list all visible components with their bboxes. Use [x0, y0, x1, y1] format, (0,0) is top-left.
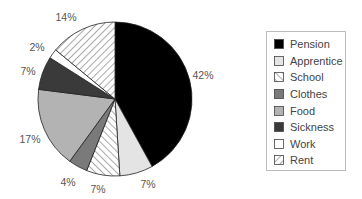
- legend-label: Pension: [290, 38, 330, 50]
- legend-item-food: Food: [274, 102, 345, 119]
- legend-item-work: Work: [274, 136, 345, 153]
- slice-label-clothes: 4%: [60, 176, 75, 188]
- legend-swatch-icon: [274, 89, 284, 99]
- slice-label-school: 7%: [90, 183, 105, 195]
- legend-label: School: [290, 71, 324, 83]
- legend-swatch-icon: [274, 139, 284, 149]
- legend: PensionApprenticeSchoolClothesFoodSickne…: [266, 31, 346, 171]
- slice-label-pension: 42%: [192, 69, 213, 81]
- legend-item-rent: Rent: [274, 152, 345, 169]
- legend-label: Clothes: [290, 88, 327, 100]
- legend-item-apprentice: Apprentice: [274, 53, 345, 70]
- legend-item-clothes: Clothes: [274, 86, 345, 103]
- legend-swatch-icon: [274, 72, 284, 82]
- legend-label: Sickness: [290, 121, 334, 133]
- slice-label-sickness: 7%: [20, 65, 35, 77]
- legend-item-school: School: [274, 69, 345, 86]
- legend-label: Rent: [290, 154, 313, 166]
- slice-label-rent: 14%: [55, 11, 76, 23]
- legend-swatch-icon: [274, 122, 284, 132]
- legend-swatch-icon: [274, 39, 284, 49]
- legend-item-pension: Pension: [274, 36, 345, 53]
- legend-swatch-icon: [274, 106, 284, 116]
- legend-label: Work: [290, 138, 315, 150]
- slice-label-food: 17%: [19, 133, 40, 145]
- legend-item-sickness: Sickness: [274, 119, 345, 136]
- pie-slices: [38, 22, 192, 176]
- legend-label: Apprentice: [290, 55, 343, 67]
- legend-swatch-icon: [274, 155, 284, 165]
- legend-swatch-icon: [274, 56, 284, 66]
- legend-label: Food: [290, 105, 315, 117]
- slice-label-work: 2%: [29, 41, 44, 53]
- slice-label-apprentice: 7%: [140, 178, 155, 190]
